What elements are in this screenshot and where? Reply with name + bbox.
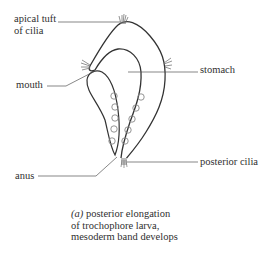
label-anus: anus — [15, 170, 34, 182]
caption-line3: mesoderm band develops — [71, 231, 178, 243]
caption-line1: posterior elongation — [86, 208, 170, 219]
leader-anus — [38, 157, 117, 176]
mouth-lip — [89, 66, 95, 71]
label-stomach: stomach — [200, 64, 235, 76]
leader-lines — [38, 22, 198, 176]
mouth-cilia-icon — [81, 60, 90, 70]
posterior-cilia-icon — [121, 158, 127, 168]
label-posterior-cilia: posterior cilia — [200, 156, 258, 168]
caption-line2: of trochophore larva, — [71, 220, 178, 232]
label-apical-tuft-line2: of cilia — [14, 25, 56, 37]
label-mouth: mouth — [16, 79, 43, 91]
side-cilia-icon — [164, 58, 172, 69]
figure-caption: (a) posterior elongation of trochophore … — [71, 208, 178, 243]
apical-tuft-cilia-icon — [119, 14, 128, 24]
label-apical-tuft: apical tuft of cilia — [14, 13, 56, 37]
caption-marker: (a) — [71, 208, 83, 219]
label-apical-tuft-line1: apical tuft — [14, 13, 56, 25]
